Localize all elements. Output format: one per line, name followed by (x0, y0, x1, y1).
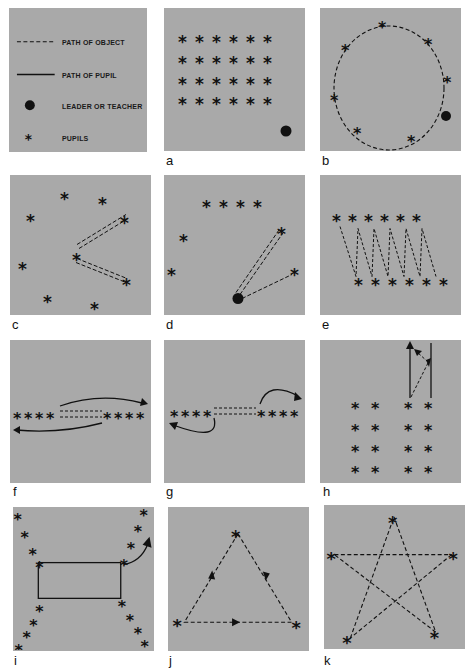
arrowhead-icon (263, 572, 270, 581)
svg-text:*: * (246, 94, 255, 114)
legend-label-pupils: PUPILS (62, 135, 88, 142)
svg-text:*: * (192, 407, 201, 426)
pupils: **** **** **** **** (13, 507, 148, 650)
pupils: ****** ****** (332, 211, 448, 295)
svg-text:*: * (219, 197, 228, 217)
svg-text:*: * (90, 299, 99, 319)
svg-text:*: * (424, 463, 433, 482)
svg-text:*: * (26, 211, 35, 231)
object-path (214, 408, 256, 414)
panel-label-b: b (322, 153, 329, 168)
svg-text:*: * (439, 275, 448, 295)
legend-panel: * PATH OF OBJECT PATH OF PUPIL LEADER OR… (9, 8, 147, 152)
svg-text:*: * (424, 399, 433, 418)
svg-text:*: * (371, 275, 380, 295)
pupil-path (60, 398, 142, 406)
formation-zigzag: ****** ****** (320, 175, 461, 318)
svg-text:*: * (290, 265, 299, 285)
svg-text:*: * (231, 526, 240, 547)
formation-semicircle: **** * * * * (164, 175, 305, 318)
svg-text:*: * (404, 399, 413, 418)
formation-circle: * * * * * * * (320, 8, 461, 151)
pupils: **** * * * * (167, 197, 299, 285)
leader-circle-icon (233, 293, 244, 304)
panel-label-k: k (324, 653, 331, 668)
svg-text:*: * (246, 32, 255, 52)
formation-shuttle-run: **** **** (10, 340, 151, 483)
svg-text:*: * (292, 617, 301, 638)
formation-loop-relay: **** **** (164, 340, 305, 483)
svg-text:*: * (136, 409, 145, 428)
svg-text:*: * (443, 73, 452, 92)
svg-text:*: * (341, 41, 350, 60)
svg-text:*: * (178, 32, 187, 52)
svg-text:*: * (246, 53, 255, 73)
panel-k: * * * * * (324, 505, 465, 649)
svg-text:*: * (170, 407, 179, 426)
pupil-path (260, 390, 298, 404)
legend-label-leader: LEADER OR TEACHER (62, 103, 142, 110)
object-path (60, 411, 102, 417)
svg-text:*: * (141, 637, 149, 650)
arrowhead-icon (140, 398, 148, 406)
svg-text:*: * (114, 409, 123, 428)
svg-text:*: * (35, 558, 43, 577)
panel-i: **** **** **** **** (13, 507, 154, 651)
svg-text:*: * (18, 259, 27, 279)
svg-text:*: * (424, 442, 433, 461)
svg-text:*: * (268, 407, 277, 426)
leader-circle-icon (441, 111, 451, 121)
panel-g: **** **** (164, 340, 305, 483)
svg-text:*: * (229, 94, 238, 114)
svg-text:*: * (405, 275, 414, 295)
panel-label-e: e (322, 317, 329, 332)
svg-text:*: * (378, 18, 387, 37)
svg-text:*: * (449, 548, 458, 569)
svg-text:*: * (35, 409, 44, 428)
svg-text:*: * (371, 421, 380, 440)
formation-column-relay: **** **** **** **** (320, 340, 461, 483)
svg-text:*: * (229, 74, 238, 94)
svg-text:*: * (167, 265, 176, 285)
svg-text:*: * (354, 275, 363, 295)
svg-text:*: * (24, 409, 33, 428)
svg-text:*: * (348, 211, 357, 231)
svg-text:*: * (380, 211, 389, 231)
svg-text:*: * (178, 94, 187, 114)
svg-text:*: * (388, 275, 397, 295)
svg-text:*: * (103, 409, 112, 428)
object-path (411, 363, 428, 397)
arrowhead-icon (208, 571, 215, 580)
legend-symbols: * (9, 8, 150, 151)
svg-text:*: * (412, 211, 421, 231)
svg-text:*: * (263, 53, 272, 73)
pupils: * * * * * * * * * (18, 189, 131, 319)
svg-text:*: * (195, 74, 204, 94)
pupil-asterisk-icon: * (25, 131, 32, 147)
svg-text:*: * (236, 197, 245, 217)
svg-text:*: * (371, 463, 380, 482)
svg-text:*: * (424, 421, 433, 440)
pupil-ring: * * * * * * * (330, 18, 452, 151)
pupils: * * * * * (326, 512, 457, 648)
svg-text:*: * (353, 124, 362, 143)
svg-text:*: * (125, 409, 134, 428)
svg-text:*: * (120, 213, 129, 233)
svg-text:*: * (22, 628, 30, 647)
panel-j: * * * (168, 507, 309, 651)
panel-label-h: h (323, 484, 330, 499)
svg-text:*: * (212, 74, 221, 94)
svg-text:*: * (332, 211, 341, 231)
svg-text:*: * (212, 53, 221, 73)
svg-text:*: * (388, 512, 397, 533)
svg-text:*: * (277, 224, 286, 244)
panel-label-j: j (169, 653, 172, 668)
svg-text:*: * (229, 53, 238, 73)
svg-text:*: * (212, 94, 221, 114)
legend-label-object: PATH OF OBJECT (62, 39, 125, 46)
pupils: **** **** (13, 409, 145, 428)
svg-text:*: * (396, 211, 405, 231)
svg-text:*: * (330, 91, 339, 110)
formation-triangle: * * * (168, 507, 309, 650)
panel-label-c: c (12, 317, 19, 332)
